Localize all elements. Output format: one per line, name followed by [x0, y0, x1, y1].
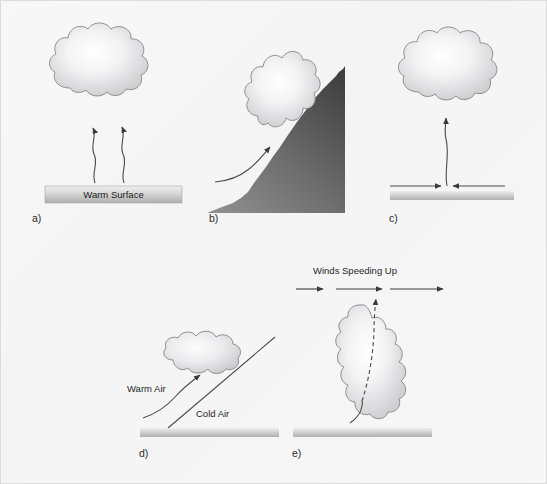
cloud-formation-figure: Warm Surface a) b) c) [0, 0, 547, 484]
warm-air-arrow [143, 375, 200, 418]
cloud-panel-d [164, 331, 241, 373]
cloud-panel-a [49, 23, 147, 96]
cloud-panel-c [398, 27, 496, 100]
ground-bar-panel-e [293, 428, 432, 437]
warm-surface-label: Warm Surface [83, 189, 143, 200]
panel-a: Warm Surface a) [32, 23, 182, 224]
figure-canvas: Warm Surface a) b) c) [0, 0, 547, 484]
panel-e: Winds Speeding Up e) [292, 265, 443, 459]
panel-label-c: c) [389, 212, 398, 224]
ground-bar-panel-c [390, 191, 514, 200]
panel-c: c) [389, 27, 514, 224]
warm-air-label: Warm Air [127, 383, 166, 394]
thermal-arrow-right [122, 127, 125, 183]
updraft-arrow-panel-c [445, 118, 447, 186]
panel-label-e: e) [292, 447, 301, 459]
winds-speeding-up-label: Winds Speeding Up [313, 265, 397, 276]
panel-label-a: a) [32, 212, 41, 224]
panel-b: b) [207, 51, 345, 224]
ground-bar-panel-d [140, 428, 279, 437]
cloud-panel-e [336, 305, 406, 419]
thermal-arrow-left [93, 128, 96, 183]
panel-d: Warm Air Cold Air d) [127, 331, 279, 459]
panel-label-b: b) [209, 212, 218, 224]
panel-label-d: d) [139, 447, 148, 459]
cold-air-label: Cold Air [196, 408, 229, 419]
